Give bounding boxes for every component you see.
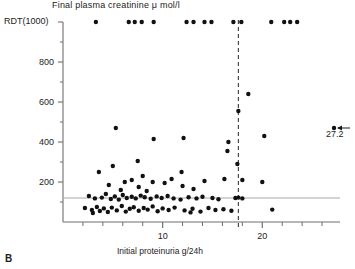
annotation-27-2: 27.2 bbox=[326, 129, 344, 139]
svg-text:800: 800 bbox=[39, 57, 54, 67]
data-points bbox=[83, 20, 337, 215]
scatter-plot-svg: 2004006008001020 bbox=[0, 0, 355, 269]
svg-text:200: 200 bbox=[39, 177, 54, 187]
svg-text:10: 10 bbox=[158, 231, 168, 241]
svg-text:600: 600 bbox=[39, 97, 54, 107]
figure-panel-b: Final plasma creatinine μ mol/l RDT(1000… bbox=[0, 0, 355, 269]
tick-labels: 2004006008001020 bbox=[39, 57, 267, 241]
svg-text:400: 400 bbox=[39, 137, 54, 147]
svg-text:20: 20 bbox=[257, 231, 267, 241]
